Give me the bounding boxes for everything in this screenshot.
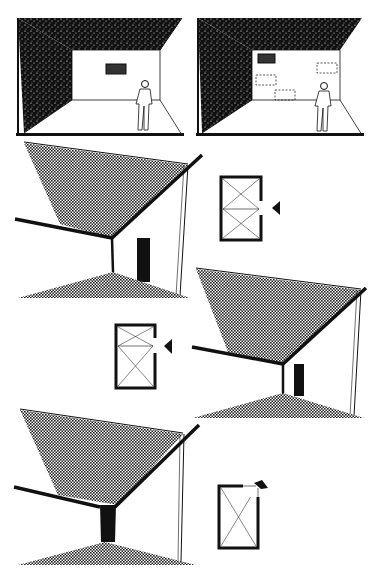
corner-room-3 [14,409,199,565]
arrow-icon [164,339,172,354]
arrow-icon [272,201,280,215]
plan-3 [219,480,268,548]
corner-room-1 [15,142,202,298]
room-before [16,18,184,136]
room-after [196,18,364,136]
corner-room-2 [192,268,366,418]
plan-2 [116,325,172,388]
plan-1 [221,177,280,240]
illustration [0,0,383,581]
